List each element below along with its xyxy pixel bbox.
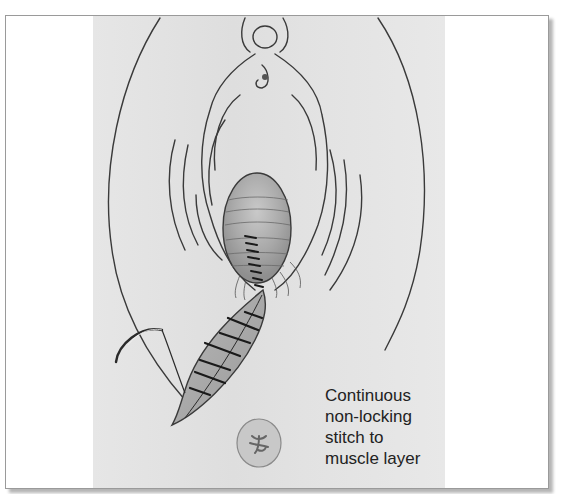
suture-needle-icon — [116, 329, 162, 362]
outer-contour-right — [378, 18, 424, 350]
caption-line: non-locking — [325, 406, 455, 427]
caption-line: Continuous — [325, 385, 455, 406]
outer-contour-left — [109, 18, 185, 400]
figure-caption: Continuous non-locking stitch to muscle … — [325, 385, 455, 469]
perineal-repair-illustration — [0, 0, 561, 494]
suture-thread — [162, 330, 185, 393]
clitoris — [253, 26, 277, 48]
caption-line: muscle layer — [325, 448, 455, 469]
perineal-wound — [172, 290, 265, 425]
vaginal-opening — [223, 173, 291, 283]
caption-line: stitch to — [325, 427, 455, 448]
